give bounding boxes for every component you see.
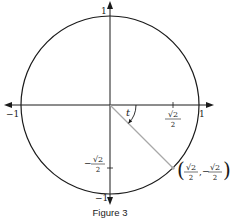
point-marker <box>171 166 175 170</box>
point-x-numerator: √2 <box>186 163 196 172</box>
radius-line <box>110 105 173 168</box>
point-open-paren: ( <box>177 158 185 182</box>
x-tick-denominator: 2 <box>171 121 175 129</box>
point-y-sign: − <box>202 166 210 176</box>
point-y-numerator: √2 <box>210 163 220 172</box>
x-tick-label: √2 2 <box>165 110 181 129</box>
unit-circle-diagram: t 1 −1 1 −1 √2 2 − √2 2 ( √2 2 , − √2 2 … <box>0 0 232 222</box>
point-y-denominator: 2 <box>213 174 217 182</box>
y-negative-label: −1 <box>95 193 108 203</box>
figure-caption: Figure 3 <box>93 207 128 218</box>
x-axis-arrow-right <box>206 102 214 108</box>
y-tick-label: − √2 2 <box>84 155 105 174</box>
y-tick-denominator: 2 <box>96 166 100 174</box>
x-tick-numerator: √2 <box>168 110 178 119</box>
y-axis-arrow-up <box>107 1 113 9</box>
point-x-denominator: 2 <box>189 174 193 182</box>
y-positive-label: 1 <box>101 6 107 16</box>
point-label: ( √2 2 , − √2 2 ) <box>177 158 231 182</box>
point-close-paren: ) <box>223 158 231 182</box>
x-negative-label: −1 <box>6 109 19 119</box>
y-tick-numerator: √2 <box>93 155 103 164</box>
angle-label: t <box>126 107 131 118</box>
x-axis-arrow-left <box>4 102 12 108</box>
y-tick-sign: − <box>84 158 92 168</box>
x-positive-label: 1 <box>199 109 205 119</box>
